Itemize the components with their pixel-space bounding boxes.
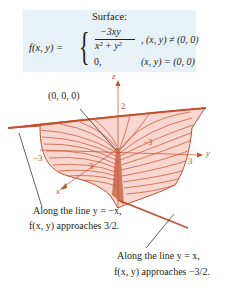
z-axis-arrow: [116, 80, 121, 86]
z-axis-label: z: [112, 71, 116, 81]
x-axis-arrow: [60, 183, 67, 190]
x-tick-neg3: −3: [33, 153, 43, 163]
surface-bottom-edge: [118, 200, 188, 228]
y-tick-neg3: −3: [143, 137, 153, 147]
z-tick-2: 2: [121, 101, 126, 111]
annotation1-leader: [19, 133, 42, 207]
origin-label: (0, 0, 0): [48, 90, 80, 101]
y-axis-arrow: [197, 153, 203, 158]
annotation1-line1: Along the line y = −x,: [33, 205, 122, 216]
annotation2-leader: [146, 214, 174, 248]
y-tick-3: 3: [188, 156, 193, 166]
annotation2-line2: f(x, y) approaches −3/2.: [114, 266, 210, 277]
y-axis-label: y: [206, 148, 210, 158]
annotation2-line1: Along the line y = x,: [117, 250, 200, 261]
x-tick-3: 3: [89, 161, 94, 171]
annotation1-line2: f(x, y) approaches 3/2.: [29, 220, 119, 231]
x-axis-label: x: [56, 186, 60, 196]
